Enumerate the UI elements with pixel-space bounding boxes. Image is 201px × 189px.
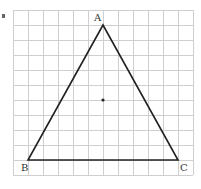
grid bbox=[13, 10, 194, 176]
center-point bbox=[101, 98, 104, 101]
vertex-label-a: A bbox=[94, 13, 101, 23]
vertex-label-b: B bbox=[21, 163, 28, 173]
triangle-diagram bbox=[0, 0, 201, 189]
vertex-label-c: C bbox=[180, 163, 188, 173]
